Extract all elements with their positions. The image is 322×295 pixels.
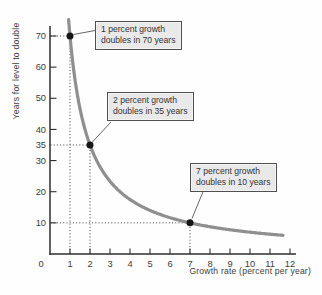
doubling-time-chart: 10203035405060700123456789101112 Years f…	[0, 0, 322, 295]
y-tick-label: 35	[36, 140, 46, 150]
x-tick-label: 5	[147, 259, 152, 269]
y-tick-label: 60	[36, 62, 46, 72]
y-tick-label: 40	[36, 125, 46, 135]
leader-line	[192, 191, 204, 219]
x-tick-label: 6	[167, 259, 172, 269]
data-point	[67, 32, 74, 39]
x-tick-label: 0	[38, 259, 43, 269]
annotation-3-line2: doubles in 10 years	[196, 177, 271, 188]
y-tick-label: 10	[36, 218, 46, 228]
x-tick-label: 2	[87, 259, 92, 269]
annotation-7-percent: 7 percent growth doubles in 10 years	[190, 163, 277, 192]
annotation-1-percent: 1 percent growth doubles in 70 years	[95, 21, 182, 50]
y-axis-title: Years for level to double	[11, 23, 21, 120]
y-tick-label: 30	[36, 156, 46, 166]
doubling-curve	[69, 20, 283, 236]
annotation-2-percent: 2 percent growth doubles in 35 years	[107, 92, 194, 121]
annotation-1-line1: 1 percent growth	[101, 24, 176, 35]
x-tick-label: 3	[107, 259, 112, 269]
leader-line	[74, 31, 96, 35]
annotation-2-line1: 2 percent growth	[113, 95, 188, 106]
data-point	[87, 141, 94, 148]
y-tick-label: 50	[36, 93, 46, 103]
x-tick-label: 4	[127, 259, 132, 269]
data-point	[187, 219, 194, 226]
annotation-3-line1: 7 percent growth	[196, 166, 271, 177]
y-tick-label: 70	[36, 31, 46, 41]
leader-line	[92, 122, 112, 143]
annotation-1-line2: doubles in 70 years	[101, 35, 176, 46]
x-tick-label: 1	[67, 259, 72, 269]
x-axis-title: Growth rate (percent per year)	[189, 266, 311, 276]
annotation-2-line2: doubles in 35 years	[113, 106, 188, 117]
y-tick-label: 20	[36, 187, 46, 197]
